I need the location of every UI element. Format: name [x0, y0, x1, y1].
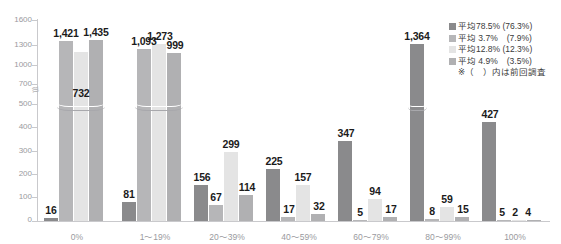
y-tick-label: 500 — [2, 100, 32, 108]
legend-swatch-icon — [449, 35, 456, 42]
y-tick-label: 0 — [2, 216, 32, 224]
bar-series2 — [353, 220, 367, 221]
legend-label: 平均 3.7% (7.9%) — [458, 33, 532, 45]
bar-value-label: 5 — [353, 207, 367, 218]
y-tick-label: 400 — [2, 123, 32, 131]
x-axis-label-60-79pct: 60〜79% — [336, 232, 406, 242]
bar-series4 — [455, 217, 469, 221]
bar-group-0pct: 16 1,421 732 1,435 — [42, 19, 112, 221]
bar-value-label: 427 — [474, 109, 506, 120]
chart-legend: 平均78.5% (76.3%) 平均 3.7% (7.9%) 平均12.8% (… — [449, 21, 546, 79]
bar-series2 — [59, 41, 73, 221]
legend-swatch-icon — [449, 46, 456, 53]
x-axis-line — [37, 221, 550, 222]
bar-value-label: 94 — [362, 186, 388, 197]
bar-value-label: 156 — [186, 172, 218, 183]
y-tick-label: 1300 — [2, 41, 32, 49]
legend-item-series3: 平均12.8% (12.3%) — [449, 44, 546, 56]
y-axis-line — [37, 19, 38, 221]
bar-value-label: 5 — [495, 207, 509, 218]
bar-series2 — [497, 220, 511, 221]
bar-series3 — [74, 52, 88, 221]
bar-value-label: 347 — [330, 128, 362, 139]
bar-value-label: 32 — [306, 201, 332, 212]
y-tick-label: 1000 — [2, 61, 32, 69]
bar-value-label: 17 — [278, 204, 300, 215]
y-tick-label: 100 — [2, 193, 32, 201]
bar-value-label: 157 — [287, 172, 319, 183]
x-axis-label-0pct: 0% — [42, 232, 112, 242]
bar-value-label: 67 — [205, 192, 227, 203]
bar-value-label: 225 — [258, 156, 290, 167]
x-axis-label-1-19pct: 1〜19% — [120, 232, 190, 242]
bar-series2 — [281, 217, 295, 221]
bar-series4 — [89, 40, 103, 221]
bar-series2 — [425, 219, 439, 221]
y-axis-break-icon: ≋ — [28, 84, 43, 96]
bar-value-label: 1,435 — [77, 27, 115, 38]
legend-footnote: ※（ ）内は前回調査 — [458, 67, 546, 79]
bar-series1 — [338, 141, 352, 221]
bar-value-label: 1,364 — [398, 31, 436, 42]
bar-group-60-79pct: 347 5 94 17 — [336, 19, 406, 221]
bar-series1 — [482, 122, 496, 221]
bar-series4 — [383, 217, 397, 221]
bar-value-label: 15 — [451, 204, 475, 215]
bar-series4 — [527, 220, 541, 221]
legend-label: 平均 4.9% (3.5%) — [458, 56, 532, 68]
bar-series1 — [194, 185, 208, 221]
bar-series4 — [239, 195, 253, 221]
bar-group-20-39pct: 156 67 299 114 — [192, 19, 262, 221]
x-axis-label-20-39pct: 20〜39% — [192, 232, 262, 242]
bar-series1 — [122, 202, 136, 221]
y-tick-label: 200 — [2, 170, 32, 178]
x-axis-label-80-99pct: 80〜99% — [408, 232, 478, 242]
legend-item-series4: 平均 4.9% (3.5%) — [449, 56, 546, 68]
legend-item-series1: 平均78.5% (76.3%) — [449, 21, 546, 33]
bar-chart: 1600 1300 1000 700 ≋ 500 400 300 200 100… — [0, 0, 561, 244]
bar-value-label: 81 — [118, 189, 140, 200]
bar-value-label: 999 — [158, 40, 192, 51]
y-tick-label: 1600 — [2, 16, 32, 24]
bar-series1 — [44, 218, 58, 221]
bar-value-label: 17 — [378, 204, 404, 215]
bar-series3 — [152, 44, 166, 221]
bar-value-label: 4 — [521, 207, 535, 218]
bar-series4 — [311, 214, 325, 221]
bar-group-40-59pct: 225 17 157 32 — [264, 19, 334, 221]
bar-series4 — [167, 53, 181, 221]
legend-swatch-icon — [449, 58, 456, 65]
x-axis-label-40-59pct: 40〜59% — [264, 232, 334, 242]
bar-value-label: 114 — [231, 182, 263, 193]
legend-item-series2: 平均 3.7% (7.9%) — [449, 33, 546, 45]
legend-label: 平均78.5% (76.3%) — [458, 21, 532, 33]
y-tick-label: 300 — [2, 147, 32, 155]
bar-value-label: 8 — [425, 206, 439, 217]
bar-group-1-19pct: 81 1,093 1,273 999 — [120, 19, 190, 221]
bar-value-label: 16 — [38, 205, 64, 216]
bar-value-label: 299 — [215, 139, 247, 150]
bar-series3 — [512, 220, 526, 221]
x-axis-label-100pct: 100% — [480, 232, 550, 242]
legend-label: 平均12.8% (12.3%) — [458, 44, 532, 56]
bar-value-label: 2 — [508, 207, 522, 218]
bar-series1 — [410, 44, 424, 221]
bar-series2 — [209, 205, 223, 221]
bar-value-label: 732 — [65, 88, 97, 99]
legend-swatch-icon — [449, 23, 456, 30]
